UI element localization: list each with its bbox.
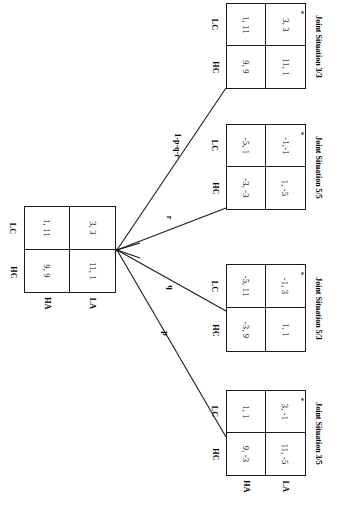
edge-label-p: p [155, 323, 175, 343]
label-5-5-col-lc: LC [206, 124, 224, 167]
cell-3-3-ha-hc: 9, 9 [227, 46, 266, 88]
cell-3-3-la-hc: 11, 1 [266, 46, 305, 88]
branch-matrix-3-5: 1, 1 * 3, -1 9, -3 11, -5 [226, 390, 306, 476]
root-row-label-la: LA [70, 295, 116, 311]
caption-3-5: Joint Situation 3/5 [308, 390, 328, 476]
root-col-label-hc: HC [4, 250, 22, 294]
root-row-label-ha: HA [24, 295, 70, 311]
cell-3-3-ha-lc: 1, 11 [227, 4, 266, 46]
root-cell-ha-lc: 1, 11 [25, 207, 70, 250]
label-5-3-col-lc: LC [206, 264, 224, 308]
equilibrium-star-3-5: * [295, 397, 304, 402]
root-payoff-matrix: 1, 11 3, 3 9, 9 11, 1 [24, 206, 116, 293]
label-3-5-col-lc: LC [206, 390, 224, 433]
root-cell-la-lc: 3, 3 [70, 207, 115, 250]
caption-3-3: Joint Situation 3/3 [308, 3, 328, 89]
cell-5-3-la-hc: 1, 1 [266, 308, 305, 351]
cell-5-3-ha-hc: -3, 9 [227, 308, 266, 351]
label-3-3-col-lc: LC [206, 3, 224, 46]
edge-label-q: q [160, 277, 180, 297]
label-3-5-col-hc: HC [206, 433, 224, 476]
equilibrium-star-5-3: * [295, 271, 304, 276]
branch-matrix-3-3: 1, 11 * 3, 3 9, 9 11, 1 [226, 3, 306, 89]
branch-matrix-5-3: -5, 11 * -1, 3 -3, 9 1, 1 [226, 264, 306, 352]
label-5-3-col-hc: HC [206, 308, 224, 352]
label-3-5-row-la: LA [266, 478, 306, 494]
cell-3-5-la-lc: * 3, -1 [266, 391, 305, 433]
figure-canvas: 1, 11 3, 3 9, 9 11, 1 LC HC HA LA 1, 11 … [0, 0, 344, 508]
branch-matrix-5-5: -5, 1 * -1,-1 -3, -3 1, -5 [226, 124, 306, 210]
edge-label-rest: 1-p-q-r [160, 125, 194, 165]
cell-5-3-la-lc: * -1, 3 [266, 265, 305, 308]
caption-5-3: Joint Situation 5/3 [308, 264, 328, 352]
root-cell-la-hc: 11, 1 [70, 250, 115, 293]
cell-3-5-la-hc: 11, -5 [266, 433, 305, 475]
root-col-label-lc: LC [4, 206, 22, 250]
equilibrium-star-3-3: * [295, 10, 304, 15]
edge-label-r: r [160, 207, 180, 227]
cell-5-5-la-lc: * -1,-1 [266, 125, 305, 167]
cell-3-5-ha-hc: 9, -3 [227, 433, 266, 475]
cell-5-5-ha-hc: -3, -3 [227, 167, 266, 209]
root-cell-ha-hc: 9, 9 [25, 250, 70, 293]
label-3-5-row-ha: HA [226, 478, 266, 494]
cell-5-3-ha-lc: -5, 11 [227, 265, 266, 308]
cell-3-5-ha-lc: 1, 1 [227, 391, 266, 433]
label-3-3-col-hc: HC [206, 46, 224, 89]
cell-3-3-la-lc: * 3, 3 [266, 4, 305, 46]
cell-5-5-ha-lc: -5, 1 [227, 125, 266, 167]
caption-5-5: Joint Situation 5/5 [308, 124, 328, 210]
label-5-5-col-hc: HC [206, 167, 224, 210]
cell-5-5-la-hc: 1, -5 [266, 167, 305, 209]
equilibrium-star-5-5: * [295, 131, 304, 136]
